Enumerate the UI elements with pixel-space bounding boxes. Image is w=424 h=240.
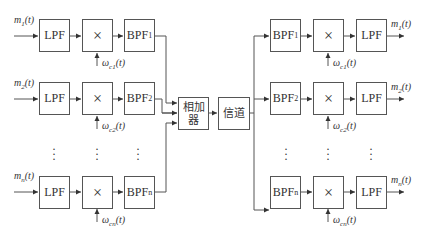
tx-ellipsis-mult: ··· <box>94 147 100 162</box>
rx-lpf-2: LPF <box>356 82 387 115</box>
rx-multiplier-2: × <box>313 82 344 115</box>
rx-bpf-n: BPFn <box>270 176 301 209</box>
tx-lpf-n: LPF <box>39 176 70 209</box>
tx-input-label-2: m2(t) <box>14 77 34 91</box>
rx-carrier-label-n: ωcn(t) <box>333 214 356 228</box>
tx-input-label-n: mn(t) <box>14 170 34 184</box>
tx-ellipsis-bpf: ··· <box>135 147 141 162</box>
rx-bpf-1: BPF1 <box>270 19 301 52</box>
tx-bpf-n: BPFn <box>124 176 155 209</box>
tx-lpf-2: LPF <box>39 82 70 115</box>
rx-output-label-1: m1(t) <box>391 18 411 32</box>
rx-multiplier-1: × <box>313 19 344 52</box>
rx-ellipsis-mult: ··· <box>325 147 331 162</box>
tx-ellipsis-lpf: ··· <box>51 147 57 162</box>
tx-bpf-2: BPF2 <box>124 82 155 115</box>
rx-output-label-n: mn(t) <box>391 174 411 188</box>
tx-carrier-label-1: ωc1(t) <box>102 57 125 71</box>
rx-carrier-label-2: ωc2(t) <box>333 120 356 134</box>
tx-input-label-1: m1(t) <box>14 14 34 28</box>
tx-multiplier-n: × <box>82 176 113 209</box>
tx-carrier-label-2: ωc2(t) <box>102 120 125 134</box>
rx-output-label-2: m2(t) <box>391 81 411 95</box>
fdm-block-diagram: m1(t) LPF × BPF1 ωc1(t) m2(t) LPF × BPF2… <box>0 0 424 240</box>
rx-lpf-1: LPF <box>356 19 387 52</box>
tx-lpf-1: LPF <box>39 19 70 52</box>
rx-bpf-2: BPF2 <box>270 82 301 115</box>
rx-multiplier-n: × <box>313 176 344 209</box>
tx-bpf-1: BPF1 <box>124 19 155 52</box>
rx-lpf-n: LPF <box>356 176 387 209</box>
rx-ellipsis-lpf: ··· <box>368 147 374 162</box>
tx-multiplier-2: × <box>82 82 113 115</box>
rx-ellipsis-bpf: ··· <box>283 147 289 162</box>
tx-multiplier-1: × <box>82 19 113 52</box>
tx-carrier-label-n: ωcn(t) <box>102 214 125 228</box>
adder-block: 相加器 <box>178 97 209 130</box>
channel-block: 信道 <box>218 97 250 130</box>
rx-carrier-label-1: ωc1(t) <box>333 57 356 71</box>
